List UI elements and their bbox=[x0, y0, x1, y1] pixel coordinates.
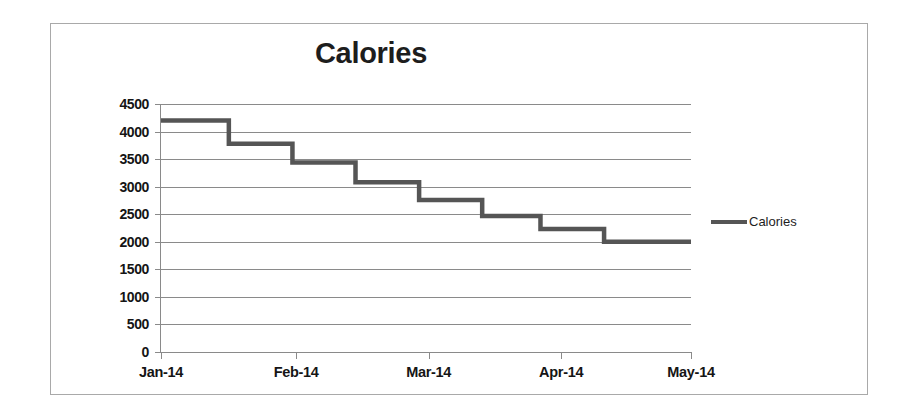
x-axis-tick bbox=[296, 352, 297, 359]
x-axis-tick bbox=[429, 352, 430, 359]
y-axis-tick-label: 4000 bbox=[89, 124, 149, 140]
legend-swatch-calories bbox=[711, 220, 747, 224]
x-axis-tick-label: Apr-14 bbox=[501, 364, 621, 380]
legend-label-calories: Calories bbox=[749, 214, 797, 229]
y-axis-tick-label: 1500 bbox=[89, 261, 149, 277]
series-polyline-calories bbox=[161, 121, 691, 242]
legend: Calories bbox=[711, 214, 797, 229]
y-axis-tick-label: 2000 bbox=[89, 234, 149, 250]
x-axis-tick-label: Mar-14 bbox=[369, 364, 489, 380]
x-axis-tick bbox=[161, 352, 162, 359]
x-axis-tick-label: Feb-14 bbox=[236, 364, 356, 380]
x-axis-tick bbox=[691, 352, 692, 359]
y-axis-tick-label: 3500 bbox=[89, 151, 149, 167]
y-axis-tick-label: 2500 bbox=[89, 206, 149, 222]
gridline bbox=[161, 352, 691, 353]
y-axis-tick-label: 4500 bbox=[89, 96, 149, 112]
chart-title: Calories bbox=[51, 37, 691, 70]
y-axis-tick-label: 500 bbox=[89, 316, 149, 332]
y-axis-tick-label: 3000 bbox=[89, 179, 149, 195]
plot-area bbox=[161, 104, 691, 352]
x-axis-tick-label: May-14 bbox=[631, 364, 751, 380]
series-line-calories bbox=[161, 104, 691, 352]
y-axis-tick-label: 0 bbox=[89, 344, 149, 360]
x-axis-tick bbox=[561, 352, 562, 359]
y-axis-tick-label: 1000 bbox=[89, 289, 149, 305]
chart-frame: Calories 4500400035003000250020001500100… bbox=[50, 23, 868, 395]
x-axis-tick-label: Jan-14 bbox=[101, 364, 221, 380]
